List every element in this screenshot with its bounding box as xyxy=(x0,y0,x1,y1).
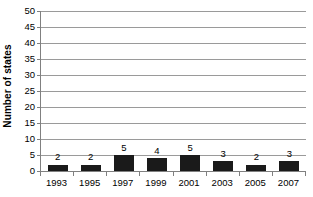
x-axis-tick-labels: 19931995199719992001200320052007 xyxy=(40,178,305,192)
x-tickmark xyxy=(106,172,107,176)
y-tick-label: 15 xyxy=(24,118,35,128)
y-tick-label: 35 xyxy=(24,54,35,64)
x-tick-label: 1995 xyxy=(73,178,106,192)
y-tick-label: 30 xyxy=(24,70,35,80)
x-tick-label: 1997 xyxy=(106,178,139,192)
bar-slot: 4 xyxy=(140,11,173,171)
bar-slot: 2 xyxy=(41,11,74,171)
x-tick-label: 1999 xyxy=(139,178,172,192)
x-tick-label: 2007 xyxy=(272,178,305,192)
x-tickmark xyxy=(139,172,140,176)
bar-value-label: 2 xyxy=(41,152,74,162)
bar-value-label: 2 xyxy=(240,152,273,162)
x-tick-label: 2005 xyxy=(239,178,272,192)
bar-slot: 3 xyxy=(207,11,240,171)
x-tickmark xyxy=(206,172,207,176)
y-axis-tick-labels: 05101520253035404550 xyxy=(16,0,37,176)
x-tickmark xyxy=(73,172,74,176)
bar xyxy=(279,161,299,171)
y-tick-label: 45 xyxy=(24,22,35,32)
bar-slot: 2 xyxy=(74,11,107,171)
bar xyxy=(114,155,134,171)
bar xyxy=(213,161,233,171)
x-tick-label: 1993 xyxy=(40,178,73,192)
bars-layer: 22545323 xyxy=(41,11,306,171)
x-tickmark xyxy=(272,172,273,176)
bar-value-label: 5 xyxy=(107,143,140,153)
bar xyxy=(180,155,200,171)
x-tickmark xyxy=(305,172,306,176)
bar-slot: 2 xyxy=(240,11,273,171)
bar-value-label: 5 xyxy=(174,143,207,153)
plot-area: 22545323 xyxy=(40,11,306,171)
y-axis-title: Number of states xyxy=(0,0,16,172)
x-tick-label: 2001 xyxy=(173,178,206,192)
y-axis-title-text: Number of states xyxy=(3,44,13,127)
y-tick-label: 40 xyxy=(24,38,35,48)
x-tickmark xyxy=(40,172,41,176)
bar-value-label: 4 xyxy=(140,146,173,156)
bar-slot: 3 xyxy=(273,11,306,171)
y-tick-label: 10 xyxy=(24,134,35,144)
x-tickmark xyxy=(173,172,174,176)
bar-slot: 5 xyxy=(174,11,207,171)
x-tick-label: 2003 xyxy=(206,178,239,192)
y-tick-label: 20 xyxy=(24,102,35,112)
y-tick-label: 50 xyxy=(24,6,35,16)
y-tick-label: 0 xyxy=(30,166,35,176)
x-tickmark xyxy=(239,172,240,176)
bar xyxy=(147,158,167,171)
bar-slot: 5 xyxy=(107,11,140,171)
bar-value-label: 3 xyxy=(207,149,240,159)
bar-value-label: 3 xyxy=(273,149,306,159)
bar-chart: Number of states 05101520253035404550 22… xyxy=(0,0,313,197)
x-axis-tickmarks xyxy=(40,172,305,176)
y-tick-label: 5 xyxy=(30,150,35,160)
bar-value-label: 2 xyxy=(74,152,107,162)
y-tick-label: 25 xyxy=(24,86,35,96)
